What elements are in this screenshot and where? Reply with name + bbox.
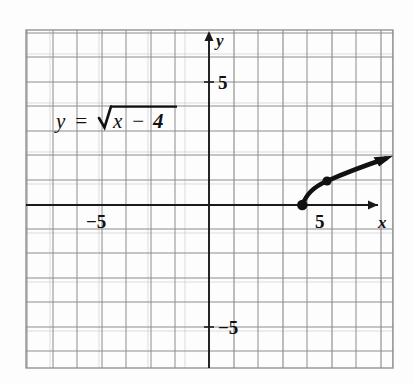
- equation-minus: −: [131, 109, 145, 133]
- equation-radicand: x: [112, 109, 123, 133]
- y-tick-label-positive-5: 5: [218, 72, 228, 93]
- equation-constant: 4: [152, 109, 164, 133]
- equation-equals: =: [74, 109, 88, 133]
- point-4-0: [297, 200, 308, 211]
- equation-lhs: y: [54, 109, 66, 133]
- x-axis-label: x: [377, 213, 387, 232]
- y-axis-label: y: [214, 31, 224, 50]
- point-5-1: [322, 176, 331, 185]
- y-tick-label-negative-5: −5: [218, 317, 238, 338]
- x-tick-label-negative-5: −5: [86, 211, 106, 232]
- graph-figure: 5 −5 −5 5 y x y = x − 4: [0, 0, 414, 385]
- x-tick-label-positive-5: 5: [315, 211, 325, 232]
- coordinate-plane: 5 −5 −5 5 y x y = x − 4: [0, 0, 414, 385]
